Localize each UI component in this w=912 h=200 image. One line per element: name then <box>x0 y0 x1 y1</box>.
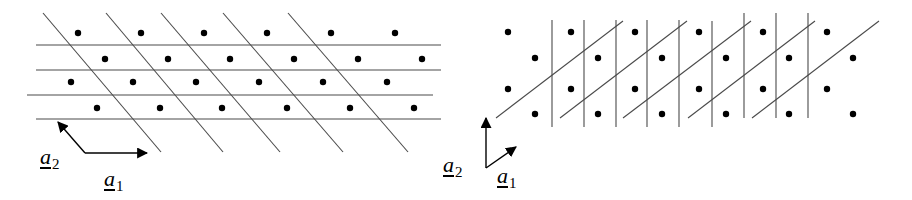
right-lattice-panel <box>486 13 879 168</box>
lattice-point <box>219 105 225 111</box>
lattice-point <box>760 86 766 92</box>
left-lattice-panel <box>27 13 441 153</box>
vector-symbol: a <box>40 144 51 169</box>
basis-vectors <box>58 122 147 153</box>
left-a2-label: a2 <box>40 146 60 168</box>
vertical-lattice-lines <box>552 13 808 127</box>
horizontal-lattice-lines <box>27 45 441 119</box>
lattice-point <box>94 105 100 111</box>
lattice-point <box>102 56 108 62</box>
vector-symbol: a <box>104 166 115 191</box>
lattice-point <box>632 29 638 35</box>
lattice-point <box>419 56 425 62</box>
lattice-point <box>850 111 856 117</box>
lattice-point <box>227 56 233 62</box>
vector-subscript: 2 <box>52 156 60 172</box>
lattice-point <box>384 79 390 85</box>
lattice-line <box>560 21 687 118</box>
lattice-point <box>193 79 199 85</box>
lattice-point <box>157 105 163 111</box>
oblique-lattice-lines <box>43 13 408 152</box>
lattice-point <box>505 29 511 35</box>
lattice-point <box>786 55 792 61</box>
lattice-point <box>68 79 74 85</box>
lattice-point <box>824 86 830 92</box>
lattice-point <box>760 29 766 35</box>
vector-symbol: a <box>443 152 454 177</box>
lattice-point <box>392 30 398 36</box>
lattice-line <box>496 21 623 118</box>
lattice-point <box>850 55 856 61</box>
vector-subscript: 2 <box>455 164 463 180</box>
lattice-point <box>411 105 417 111</box>
right-a2-label: a2 <box>443 154 463 176</box>
lattice-point <box>347 105 353 111</box>
lattice-point <box>568 29 574 35</box>
lattice-point <box>355 56 361 62</box>
lattice-point <box>595 55 601 61</box>
vector-symbol: a <box>497 163 508 188</box>
lattice-point <box>328 30 334 36</box>
lattice-points <box>505 29 856 117</box>
lattice-point <box>138 30 144 36</box>
left-a1-label: a1 <box>104 168 124 190</box>
lattice-line <box>688 21 815 118</box>
lattice-point <box>632 86 638 92</box>
lattice-point <box>505 86 511 92</box>
lattice-line <box>623 21 751 118</box>
right-a1-label: a1 <box>497 165 517 187</box>
vector-subscript: 1 <box>116 178 124 194</box>
lattice-point <box>264 30 270 36</box>
lattice-point <box>130 79 136 85</box>
oblique-lattice-lines <box>496 21 879 118</box>
lattice-point <box>75 30 81 36</box>
lattice-point <box>291 56 297 62</box>
lattice-point <box>723 111 729 117</box>
a2-arrow-icon <box>58 122 85 153</box>
lattice-point <box>165 56 171 62</box>
lattice-point <box>256 79 262 85</box>
lattice-point <box>659 111 665 117</box>
basis-vectors <box>486 118 516 168</box>
lattice-point <box>696 29 702 35</box>
lattice-point <box>824 29 830 35</box>
lattice-point <box>659 55 665 61</box>
lattice-point <box>723 55 729 61</box>
lattice-point <box>532 55 538 61</box>
lattice-point <box>320 79 326 85</box>
lattice-point <box>786 111 792 117</box>
lattice-point <box>595 111 601 117</box>
lattice-point <box>532 111 538 117</box>
lattice-point <box>696 86 702 92</box>
lattice-point <box>284 105 290 111</box>
lattice-line <box>752 21 879 118</box>
lattice-point <box>201 30 207 36</box>
vector-subscript: 1 <box>509 175 517 191</box>
lattice-point <box>568 86 574 92</box>
